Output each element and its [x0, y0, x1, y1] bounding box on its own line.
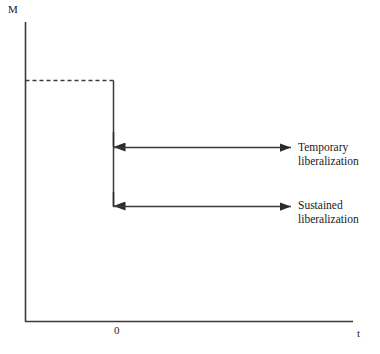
annotation-sustained-line1: Sustained: [298, 198, 359, 212]
money-step-diagram: M t 0 Temporary liberalization Sustained…: [0, 0, 380, 354]
x-axis-tick-zero: 0: [114, 325, 120, 336]
annotation-temporary-line2: liberalization: [298, 154, 359, 168]
diagram-canvas: [0, 0, 380, 354]
annotation-temporary-line1: Temporary: [298, 140, 359, 154]
x-axis-label: t: [357, 328, 360, 339]
annotation-sustained-liberalization: Sustained liberalization: [298, 198, 359, 227]
annotation-sustained-line2: liberalization: [298, 212, 359, 226]
y-axis-label: M: [8, 4, 18, 15]
annotation-temporary-liberalization: Temporary liberalization: [298, 140, 359, 169]
